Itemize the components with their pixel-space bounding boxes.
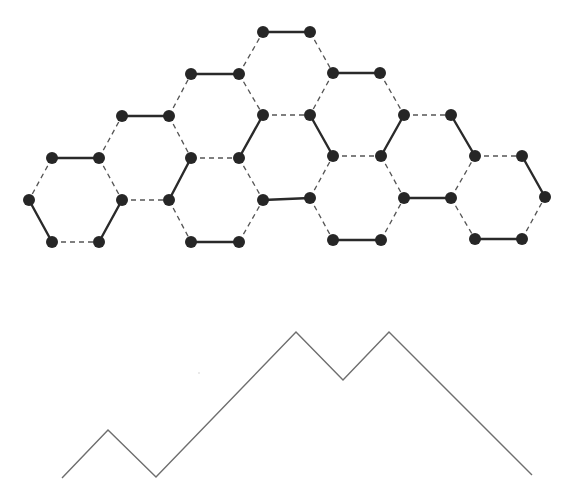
diagram-canvas — [0, 0, 571, 495]
stray-dot — [198, 372, 200, 374]
mountain-path-polyline — [62, 332, 532, 478]
mountain-lattice-path — [0, 0, 571, 495]
